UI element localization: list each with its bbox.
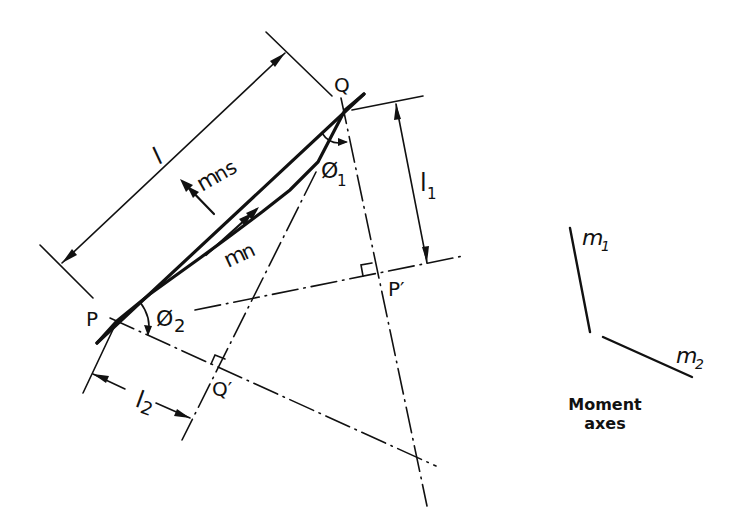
arrowhead-l1-bottom	[422, 246, 429, 263]
label-phi2: Ø 2	[156, 306, 185, 336]
label-l1: l 1	[420, 169, 437, 203]
label-mns: m ns	[192, 154, 241, 197]
label-l2: l 2	[131, 385, 159, 420]
extension-line-l1-top	[352, 96, 423, 110]
svg-text:1: 1	[337, 172, 347, 190]
caption-axes: axes	[584, 414, 626, 433]
label-P: P	[86, 307, 98, 331]
yield-line-diagram: Q P P′ Q′ l l 1 l 2 Ø 1 Ø 2 m ns m n m 1	[0, 0, 749, 527]
label-m2-group: m 2	[676, 343, 704, 372]
label-Q: Q	[334, 73, 350, 97]
arrowhead-l2-right	[174, 409, 190, 418]
arrowhead-phi1	[338, 138, 348, 146]
label-mn: m n	[220, 236, 259, 272]
label-phi1: Ø 1	[321, 158, 347, 190]
label-l: l	[149, 142, 167, 170]
label-Q-prime: Q′	[212, 377, 233, 401]
svg-text:2: 2	[174, 315, 185, 336]
label-m1-group: m 1	[582, 225, 610, 254]
svg-text:2: 2	[695, 356, 704, 372]
svg-text:Ø: Ø	[156, 306, 173, 331]
line-Q-Pprime	[341, 98, 427, 506]
svg-text:1: 1	[427, 185, 437, 203]
extension-line-P	[40, 245, 93, 298]
diagram-canvas: Q P P′ Q′ l l 1 l 2 Ø 1 Ø 2 m ns m n m 1	[0, 0, 749, 527]
label-P-prime: P′	[388, 277, 405, 301]
line-P-Qprime	[110, 318, 436, 466]
svg-text:1: 1	[601, 238, 610, 254]
yield-line-PQ-straight	[97, 94, 364, 343]
dimension-line-l	[62, 53, 285, 263]
svg-text:Ø: Ø	[321, 158, 338, 183]
svg-text:l: l	[420, 169, 427, 197]
svg-text:l: l	[149, 142, 167, 170]
moment-axes-inset: m 1 m 2 Moment axes	[568, 225, 704, 433]
arrowhead-l2-left	[93, 374, 109, 383]
caption-moment: Moment	[568, 395, 642, 414]
arrowhead-l1-top	[394, 104, 401, 120]
